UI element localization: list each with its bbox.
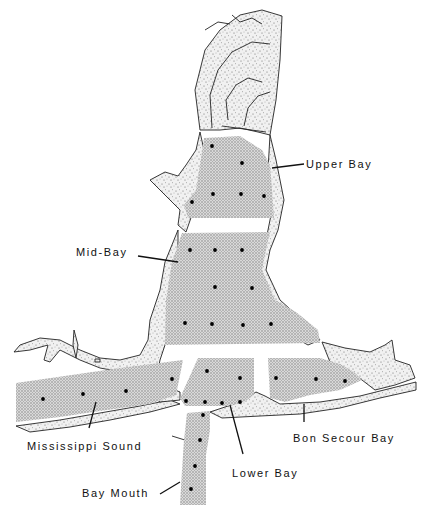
label-mississippi-sound: Mississippi Sound <box>27 440 142 452</box>
station-marker-mid-bay <box>213 285 217 289</box>
label-upper-bay: Upper Bay <box>306 158 372 170</box>
label-bon-secour-bay: Bon Secour Bay <box>293 432 395 444</box>
station-marker-lower-bay <box>220 401 224 405</box>
station-marker-bay-mouth <box>193 464 197 468</box>
station-marker-mid-bay <box>250 286 254 290</box>
station-marker-lower-bay <box>184 399 188 403</box>
station-marker-upper-bay <box>190 200 194 204</box>
station-marker-bon-secour-bay <box>343 379 347 383</box>
mobile-bay-map: Upper Bay Mid-Bay Mississippi Sound Lowe… <box>0 0 424 519</box>
station-marker-bay-mouth <box>198 438 202 442</box>
station-marker-mississippi-sound <box>81 392 85 396</box>
station-marker-upper-bay <box>240 161 244 165</box>
station-marker-mississippi-sound <box>124 389 128 393</box>
leader-line-bay-mouth <box>160 482 180 494</box>
region-bay-mouth <box>180 411 210 505</box>
label-bay-mouth: Bay Mouth <box>82 487 149 499</box>
station-marker-upper-bay <box>239 192 243 196</box>
region-lower-bay <box>180 358 254 406</box>
station-marker-bay-mouth <box>201 413 205 417</box>
station-marker-upper-bay <box>262 194 266 198</box>
station-marker-lower-bay <box>203 400 207 404</box>
station-marker-lower-bay <box>238 400 242 404</box>
station-marker-lower-bay <box>205 369 209 373</box>
station-marker-mid-bay <box>269 322 273 326</box>
station-marker-mississippi-sound <box>41 397 45 401</box>
station-marker-bon-secour-bay <box>274 376 278 380</box>
station-marker-mid-bay <box>213 248 217 252</box>
station-marker-upper-bay <box>211 192 215 196</box>
station-marker-mid-bay <box>188 248 192 252</box>
station-marker-mid-bay <box>240 248 244 252</box>
station-marker-mid-bay <box>210 322 214 326</box>
label-lower-bay: Lower Bay <box>232 467 298 479</box>
label-mid-bay: Mid-Bay <box>76 246 128 258</box>
station-marker-mid-bay <box>241 323 245 327</box>
station-marker-bay-mouth <box>189 487 193 491</box>
station-marker-bon-secour-bay <box>314 377 318 381</box>
station-marker-upper-bay <box>210 144 214 148</box>
station-marker-lower-bay <box>238 376 242 380</box>
station-marker-mid-bay <box>183 321 187 325</box>
station-marker-mississippi-sound <box>170 377 174 381</box>
